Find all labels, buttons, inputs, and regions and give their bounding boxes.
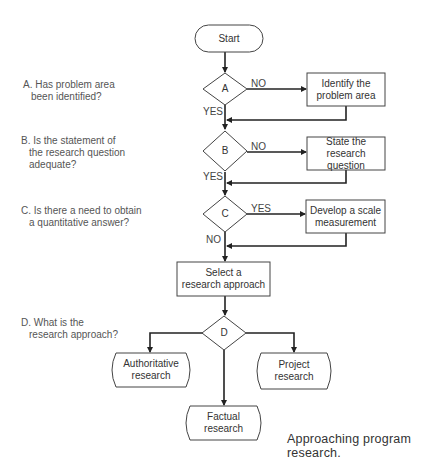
question-d-line1: D. What is the: [21, 317, 118, 329]
decision-b-label: B: [203, 131, 247, 171]
question-b: B. Is the statement of the research ques…: [21, 135, 125, 171]
edge-develop-return: [227, 233, 346, 246]
develop-line1: Develop a scale: [310, 205, 381, 217]
question-c: C. Is there a need to obtain a quantitat…: [21, 205, 142, 229]
select-line2: research approach: [182, 279, 265, 291]
decision-c-text: C: [221, 208, 228, 220]
authoritative-line1: Authoritative: [123, 358, 179, 370]
edge-label-c-no: NO: [206, 235, 221, 245]
question-d-line2: research approach?: [21, 329, 118, 341]
state-line1: State the: [326, 136, 366, 148]
question-a: A. Has problem area been identified?: [23, 79, 115, 103]
decision-c-label: C: [203, 196, 247, 232]
edge-label-b-yes: YES: [203, 172, 223, 182]
start-text: Start: [218, 33, 239, 45]
edge-d-authoritative: [150, 333, 203, 352]
identify-line2: problem area: [317, 90, 376, 102]
state-line2: research question: [307, 148, 385, 172]
decision-a-label: A: [203, 73, 247, 105]
question-c-line1: C. Is there a need to obtain: [21, 205, 142, 217]
edge-state-return: [227, 170, 346, 183]
develop-line2: measurement: [315, 217, 376, 229]
question-b-line1: B. Is the statement of: [21, 135, 125, 147]
question-a-line1: A. Has problem area: [23, 79, 115, 91]
project-line1: Project: [278, 359, 309, 371]
edge-label-b-no: NO: [251, 142, 266, 152]
edge-label-a-yes: YES: [203, 107, 223, 117]
start-label: Start: [195, 25, 263, 52]
question-c-line2: a quantitative answer?: [21, 217, 142, 229]
question-b-line2: the research question: [21, 147, 125, 159]
state-label: State the research question: [307, 137, 385, 170]
question-d: D. What is the research approach?: [21, 317, 118, 341]
question-b-line3: adequate?: [21, 159, 125, 171]
edge-d-project: [246, 333, 294, 352]
decision-d-label: D: [202, 316, 246, 350]
project-label: Project research: [255, 353, 333, 389]
authoritative-label: Authoritative research: [110, 353, 192, 387]
decision-b-text: B: [222, 145, 229, 157]
factual-line1: Factual: [207, 411, 240, 423]
project-line2: research: [275, 371, 314, 383]
edge-label-c-yes: YES: [251, 204, 271, 214]
select-label: Select a research approach: [177, 262, 270, 296]
edge-identify-return: [227, 106, 346, 120]
figure-caption: Approaching program research.: [287, 432, 448, 460]
factual-label: Factual research: [184, 406, 263, 440]
edge-label-a-no: NO: [251, 79, 266, 89]
flowchart-canvas: [0, 0, 448, 474]
decision-a-text: A: [222, 83, 229, 95]
authoritative-line2: research: [132, 370, 171, 382]
question-a-line2: been identified?: [23, 91, 115, 103]
decision-d-text: D: [220, 327, 227, 339]
identify-label: Identify the problem area: [307, 73, 385, 106]
select-line1: Select a: [205, 267, 241, 279]
develop-label: Develop a scale measurement: [306, 200, 385, 233]
factual-line2: research: [204, 423, 243, 435]
identify-line1: Identify the: [322, 78, 371, 90]
